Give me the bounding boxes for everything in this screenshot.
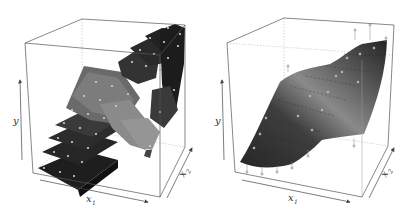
x1-axis-label: x 1 xyxy=(288,192,298,205)
x2-axis-label: x 2 xyxy=(378,165,394,180)
fitted-surface xyxy=(240,40,387,168)
left-3d-plot-canvas: y x 1 x 2 xyxy=(0,0,204,214)
y-axis-label: y xyxy=(12,115,19,126)
y-axis-arrow xyxy=(222,80,224,160)
right-smooth-surface-plot: y x 1 x 2 xyxy=(202,0,406,214)
x2-axis-label: x 2 xyxy=(176,165,192,180)
y-axis-arrow xyxy=(20,80,22,160)
svg-text:1: 1 xyxy=(92,199,96,206)
y-axis-label: y xyxy=(214,115,221,126)
svg-text:1: 1 xyxy=(294,198,298,205)
x1-axis-label: x 1 xyxy=(86,193,96,206)
left-step-surface-plot: y x 1 x 2 xyxy=(0,0,204,214)
right-3d-plot-canvas: y x 1 x 2 xyxy=(202,0,407,214)
